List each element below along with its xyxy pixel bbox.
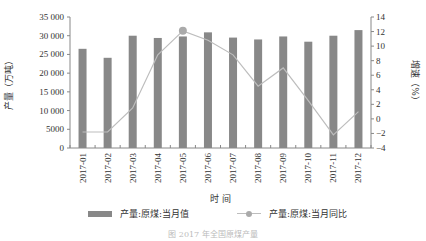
left-axis-title: 产量（万吨） <box>3 56 14 110</box>
x-tick-label: 2017-11 <box>328 153 338 183</box>
legend-bar-label: 产量:原煤:当月值 <box>120 207 189 220</box>
right-tick-label: −4 <box>376 143 386 153</box>
bar <box>204 32 212 148</box>
left-tick-label: 20 000 <box>39 68 64 78</box>
right-tick-label: 0 <box>376 114 381 124</box>
x-tick-label: 2017-09 <box>278 153 288 183</box>
left-tick-label: 0 <box>60 143 65 153</box>
x-tick-label: 2017-06 <box>203 153 213 183</box>
right-axis-title: 增速（%） <box>410 60 421 105</box>
bar <box>254 39 262 148</box>
bar <box>104 58 112 148</box>
right-tick-label: −2 <box>376 128 386 138</box>
x-tick-label: 2017-08 <box>253 153 263 183</box>
yoy-line <box>83 31 359 135</box>
x-tick-label: 2017-01 <box>78 153 88 183</box>
x-tick-label: 2017-12 <box>353 153 363 183</box>
legend-line-label: 产量:原煤:当月同比 <box>269 207 347 220</box>
line-marker-swatch-icon <box>237 211 261 217</box>
left-tick-label: 10 000 <box>39 106 64 116</box>
legend: 产量:原煤:当月值 产量:原煤:当月同比 <box>0 207 426 221</box>
bar-swatch-icon <box>88 211 112 217</box>
x-axis-title: 时 间 <box>210 193 231 204</box>
right-tick-label: 12 <box>376 27 385 37</box>
bar <box>129 36 137 148</box>
combo-chart: 0500010 00015 00020 00025 00030 00035 00… <box>0 0 426 206</box>
right-tick-label: 14 <box>376 12 386 22</box>
legend-item-line: 产量:原煤:当月同比 <box>237 207 347 220</box>
x-tick-label: 2017-07 <box>228 153 238 183</box>
right-tick-label: 10 <box>376 41 386 51</box>
bar <box>79 49 87 148</box>
left-tick-label: 25 000 <box>39 49 64 59</box>
left-tick-label: 15 000 <box>39 87 64 97</box>
left-tick-label: 5000 <box>46 124 65 134</box>
left-tick-label: 35 000 <box>39 12 64 22</box>
x-tick-label: 2017-04 <box>153 153 163 183</box>
bar <box>279 36 287 148</box>
bar <box>179 36 187 148</box>
line-marker <box>179 27 187 35</box>
left-tick-label: 30 000 <box>39 31 64 41</box>
bar <box>354 30 362 148</box>
legend-item-bar: 产量:原煤:当月值 <box>88 207 189 220</box>
right-tick-label: 6 <box>376 70 381 80</box>
figure-caption: 图 2017 年全国原煤产量 <box>0 228 426 239</box>
bar <box>229 38 237 148</box>
bar <box>304 42 312 148</box>
x-tick-label: 2017-02 <box>103 153 113 183</box>
right-tick-label: 4 <box>376 85 381 95</box>
right-tick-label: 8 <box>376 56 381 66</box>
right-tick-label: 2 <box>376 99 381 109</box>
x-tick-label: 2017-05 <box>178 153 188 183</box>
x-tick-label: 2017-10 <box>303 153 313 183</box>
x-tick-label: 2017-03 <box>128 153 138 183</box>
